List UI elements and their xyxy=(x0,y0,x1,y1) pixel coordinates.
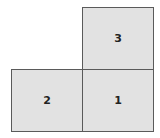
square-2-label: 2 xyxy=(43,94,51,107)
square-1: 1 xyxy=(82,69,154,132)
square-3: 3 xyxy=(82,7,154,70)
square-2: 2 xyxy=(11,69,83,132)
square-1-label: 1 xyxy=(114,94,122,107)
square-3-label: 3 xyxy=(114,32,122,45)
